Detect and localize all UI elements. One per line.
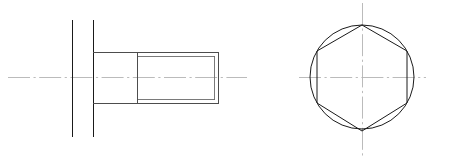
hex-head-chamfer-circle xyxy=(310,25,414,129)
front-view xyxy=(8,20,247,137)
drawing-svg xyxy=(0,0,449,162)
side-view xyxy=(299,3,426,158)
hex-head-outline xyxy=(317,25,407,131)
technical-drawing-canvas xyxy=(0,0,449,162)
